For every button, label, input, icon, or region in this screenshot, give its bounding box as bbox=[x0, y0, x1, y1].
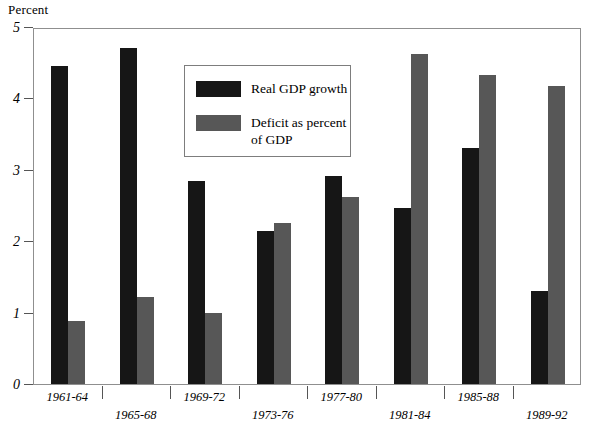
x-axis-tick-label: 1969-72 bbox=[164, 390, 244, 405]
x-axis-tick-label: 1989-92 bbox=[507, 408, 587, 423]
bar bbox=[531, 291, 548, 384]
y-axis-title: Percent bbox=[8, 2, 48, 18]
y-axis-tick-label: 3 bbox=[0, 161, 20, 181]
legend-label-real-gdp-growth: Real GDP growth bbox=[251, 80, 347, 97]
bar bbox=[274, 223, 291, 384]
x-axis-tick-label: 1985-88 bbox=[438, 390, 518, 405]
bar bbox=[137, 297, 154, 384]
bar bbox=[68, 321, 85, 384]
legend-label-deficit-percent-gdp: Deficit as percent of GDP bbox=[251, 114, 350, 148]
bar bbox=[120, 48, 137, 384]
bar bbox=[411, 54, 428, 384]
bar bbox=[479, 75, 496, 384]
chart-legend: Real GDP growth Deficit as percent of GD… bbox=[184, 65, 351, 157]
y-axis-tick-mark bbox=[24, 27, 33, 28]
bar bbox=[462, 148, 479, 384]
x-axis-tick-label: 1965-68 bbox=[96, 408, 176, 423]
x-axis-tick-label: 1973-76 bbox=[233, 408, 313, 423]
x-axis-tick-label: 1981-84 bbox=[370, 408, 450, 423]
bar bbox=[205, 313, 222, 384]
legend-item-deficit-percent-gdp: Deficit as percent of GDP bbox=[196, 114, 350, 148]
y-axis-tick-mark bbox=[24, 384, 33, 385]
y-axis-tick-label: 5 bbox=[0, 18, 20, 38]
y-axis-tick-mark bbox=[24, 170, 33, 171]
y-axis-tick-mark bbox=[24, 313, 33, 314]
y-axis-tick-mark bbox=[24, 98, 33, 99]
y-axis-tick-label: 1 bbox=[0, 304, 20, 324]
legend-swatch-black-icon bbox=[196, 81, 241, 97]
bar bbox=[188, 181, 205, 384]
y-axis-tick-label: 4 bbox=[0, 89, 20, 109]
bar-chart: Percent 012345 1961-641965-681969-721973… bbox=[0, 0, 590, 428]
legend-swatch-gray-icon bbox=[196, 115, 241, 131]
bar bbox=[257, 231, 274, 385]
x-axis-tick-label: 1961-64 bbox=[27, 390, 107, 405]
bar bbox=[548, 86, 565, 384]
bar bbox=[51, 66, 68, 384]
bar bbox=[342, 197, 359, 384]
bar bbox=[394, 208, 411, 384]
legend-item-real-gdp-growth: Real GDP growth bbox=[196, 80, 347, 97]
y-axis-tick-label: 2 bbox=[0, 232, 20, 252]
y-axis-tick-label: 0 bbox=[0, 375, 20, 395]
bar bbox=[325, 176, 342, 384]
y-axis-tick-mark bbox=[24, 241, 33, 242]
x-axis-tick-label: 1977-80 bbox=[301, 390, 381, 405]
